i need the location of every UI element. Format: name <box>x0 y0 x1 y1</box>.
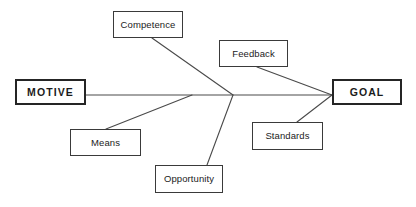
fishbone-diagram: MOTIVE GOAL Competence Feedback Means Op… <box>0 0 416 207</box>
node-motive[interactable]: MOTIVE <box>15 79 86 105</box>
node-standards[interactable]: Standards <box>252 122 323 150</box>
node-competence[interactable]: Competence <box>113 11 183 38</box>
node-goal-label: GOAL <box>350 87 385 98</box>
connector-standards-to-goal <box>297 95 332 122</box>
connector-opportunity-to-spine <box>207 95 233 165</box>
node-feedback-label: Feedback <box>232 49 275 59</box>
node-goal[interactable]: GOAL <box>332 79 402 105</box>
node-standards-label: Standards <box>265 131 309 141</box>
node-feedback[interactable]: Feedback <box>219 40 288 67</box>
connector-means-to-spine <box>106 95 192 129</box>
node-motive-label: MOTIVE <box>27 87 74 98</box>
node-means-label: Means <box>91 138 120 148</box>
node-opportunity[interactable]: Opportunity <box>155 165 223 193</box>
connector-feedback-to-goal <box>257 67 332 95</box>
node-opportunity-label: Opportunity <box>164 174 214 184</box>
node-competence-label: Competence <box>121 20 176 30</box>
node-means[interactable]: Means <box>70 129 141 156</box>
